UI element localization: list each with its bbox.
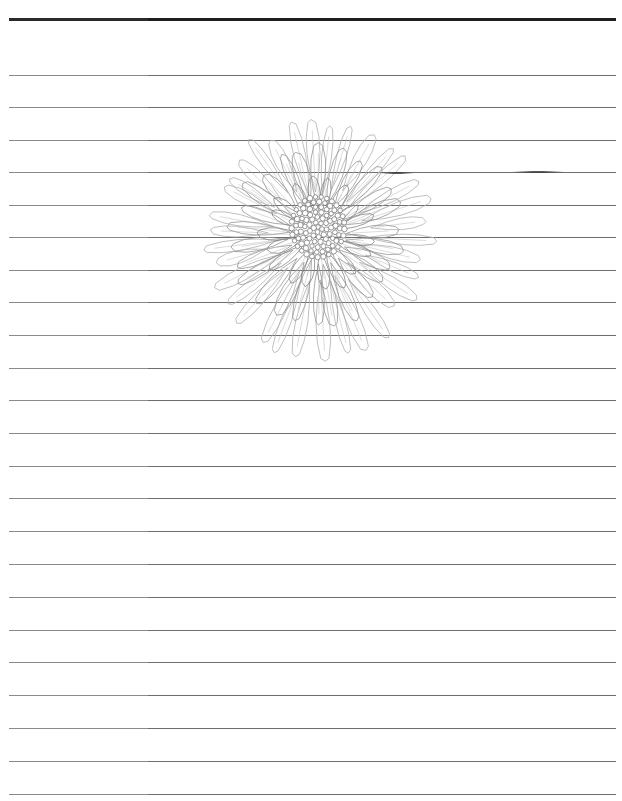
- rule-line: [9, 433, 616, 434]
- chrysanthemum-illustration: [180, 95, 460, 375]
- rule-line: [9, 761, 616, 762]
- rule-line: [9, 630, 616, 631]
- rule-line: [9, 498, 616, 499]
- rule-line: [9, 728, 616, 729]
- rule-line: [9, 400, 616, 401]
- rule-line: [9, 564, 616, 565]
- pencil-smudge: [380, 172, 414, 174]
- rule-line: [9, 597, 616, 598]
- rule-line: [9, 695, 616, 696]
- pencil-smudge: [512, 171, 564, 173]
- rule-line: [9, 466, 616, 467]
- header-rule: [9, 18, 616, 21]
- rule-line: [9, 531, 616, 532]
- rule-line: [9, 794, 616, 795]
- rule-line: [9, 75, 616, 76]
- rule-line: [9, 662, 616, 663]
- lined-paper: [0, 0, 622, 801]
